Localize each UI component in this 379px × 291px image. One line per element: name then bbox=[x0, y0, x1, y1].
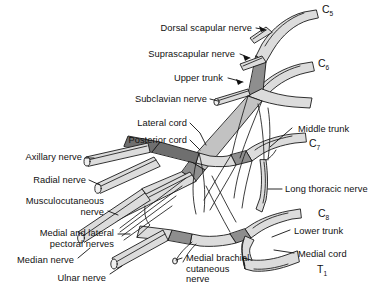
diagram-canvas: .nv{stroke:#1a1a1a;stroke-width:0.9;stro… bbox=[0, 0, 379, 291]
root-label-c6: C6 bbox=[318, 57, 329, 69]
root-label-t1: T1 bbox=[317, 263, 327, 275]
root-letter-c5: C bbox=[322, 3, 330, 15]
root-label-c5: C5 bbox=[322, 3, 333, 15]
label-medial-and-lateral-pectoral-nerves: Medial and lateral pectoral nerves bbox=[14, 228, 114, 249]
label-dorsal-scapular-nerve: Dorsal scapular nerve bbox=[142, 23, 252, 34]
long-thoracic-nerve-branch bbox=[256, 160, 268, 212]
label-radial-nerve: Radial nerve bbox=[16, 175, 86, 186]
label-ulnar-nerve: Ulnar nerve bbox=[36, 273, 106, 284]
label-lower-trunk: Lower trunk bbox=[294, 226, 374, 237]
label-posterior-cord: Posterior cord bbox=[98, 135, 187, 146]
label-musculocutaneous-nerve: Musculocutaneous nerve bbox=[8, 196, 104, 217]
label-lateral-cord: Lateral cord bbox=[112, 118, 187, 129]
root-number-c8: 8 bbox=[326, 214, 330, 221]
nerve-root-c7 bbox=[246, 133, 306, 161]
root-label-c8: C8 bbox=[318, 207, 329, 219]
root-label-c7: C7 bbox=[309, 137, 320, 149]
root-number-c5: 5 bbox=[330, 10, 334, 17]
label-median-nerve: Median nerve bbox=[4, 255, 74, 266]
nerve-root-c8 bbox=[245, 209, 301, 238]
label-middle-trunk: Middle trunk bbox=[298, 124, 378, 135]
axillary-nerve-branch bbox=[84, 143, 150, 166]
label-axillary-nerve: Axillary nerve bbox=[4, 152, 82, 163]
label-medial-brachial-cutaneous-nerve: Medial brachial cutaneous nerve bbox=[186, 253, 278, 285]
label-medial-cord: Medial cord bbox=[298, 249, 378, 260]
root-number-c6: 6 bbox=[326, 64, 330, 71]
label-subclavian-nerve: Subclavian nerve bbox=[112, 94, 207, 105]
root-letter-c6: C bbox=[318, 57, 326, 69]
root-number-t1: 1 bbox=[323, 270, 327, 277]
root-number-c7: 7 bbox=[317, 144, 321, 151]
label-suprascapular-nerve: Suprascapular nerve bbox=[130, 49, 235, 60]
label-upper-trunk: Upper trunk bbox=[148, 73, 223, 84]
root-letter-c7: C bbox=[309, 137, 317, 149]
root-letter-c8: C bbox=[318, 207, 326, 219]
label-long-thoracic-nerve: Long thoracic nerve bbox=[285, 184, 379, 195]
